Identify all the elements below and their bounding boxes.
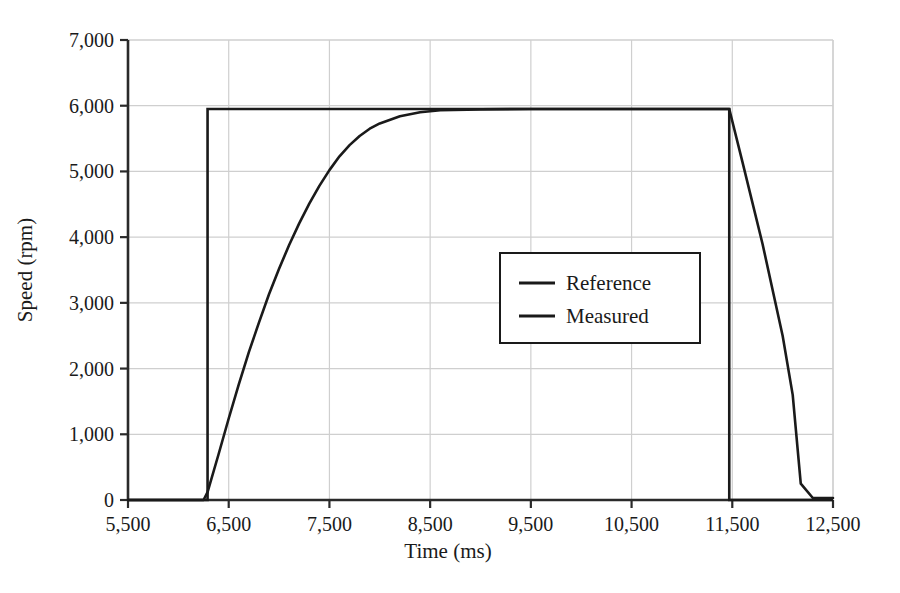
x-tick-label: 5,500 bbox=[106, 513, 151, 535]
y-tick-label: 0 bbox=[104, 489, 114, 511]
y-axis-title: Speed (rpm) bbox=[13, 218, 37, 322]
y-tick-label: 1,000 bbox=[69, 423, 114, 445]
x-tick-label: 8,500 bbox=[408, 513, 453, 535]
x-tick-label: 11,500 bbox=[705, 513, 759, 535]
x-tick-label: 10,500 bbox=[604, 513, 659, 535]
legend-label-measured: Measured bbox=[566, 304, 649, 328]
y-tick-label: 2,000 bbox=[69, 358, 114, 380]
x-tick-label: 6,500 bbox=[206, 513, 251, 535]
chart-figure: 01,0002,0003,0004,0005,0006,0007,000 5,5… bbox=[0, 0, 900, 593]
y-tick-label: 5,000 bbox=[69, 160, 114, 182]
x-tick-label: 12,500 bbox=[806, 513, 861, 535]
legend-box bbox=[500, 253, 700, 343]
x-tick-label: 7,500 bbox=[307, 513, 352, 535]
y-tick-label: 3,000 bbox=[69, 292, 114, 314]
y-tick-label: 4,000 bbox=[69, 226, 114, 248]
x-tick-label: 9,500 bbox=[508, 513, 553, 535]
y-tick-label: 7,000 bbox=[69, 29, 114, 51]
chart-background bbox=[0, 0, 900, 593]
legend-label-reference: Reference bbox=[566, 271, 651, 295]
chart-canvas: 01,0002,0003,0004,0005,0006,0007,000 5,5… bbox=[0, 0, 900, 593]
chart-legend[interactable]: Reference Measured bbox=[500, 253, 700, 343]
y-tick-label: 6,000 bbox=[69, 95, 114, 117]
x-axis-title: Time (ms) bbox=[404, 539, 491, 563]
